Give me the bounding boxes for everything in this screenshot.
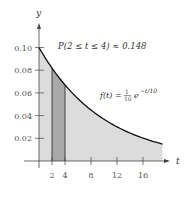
x-tick-label: 16 [138, 171, 148, 180]
probability-annotation: P(2 ≤ t ≤ 4) ≈ 0.148 [57, 41, 147, 51]
svg-text:e: e [134, 91, 139, 100]
y-tick-label: 0.10 [14, 44, 32, 53]
y-tick-label: 0.02 [14, 134, 32, 143]
y-axis-label: y [35, 8, 42, 18]
y-tick-label: 0.08 [14, 66, 32, 75]
x-tick-label: 4 [62, 171, 67, 180]
svg-text:1: 1 [125, 88, 129, 95]
function-label: f(t) = 1 10 e −t/10 [99, 87, 157, 102]
y-tick-label: 0.04 [14, 112, 32, 121]
svg-text:f(t) =: f(t) = [99, 91, 122, 100]
svg-text:−t/10: −t/10 [140, 87, 157, 94]
x-axis-label: t [176, 156, 180, 166]
x-tick-label: 8 [88, 171, 93, 180]
svg-text:10: 10 [124, 95, 132, 102]
y-tick-label: 0.06 [14, 89, 32, 98]
x-tick-label: 2 [49, 171, 54, 180]
chart: 24812160.020.040.060.080.10 y t P(2 ≤ t … [0, 0, 186, 201]
x-tick-label: 12 [112, 171, 122, 180]
